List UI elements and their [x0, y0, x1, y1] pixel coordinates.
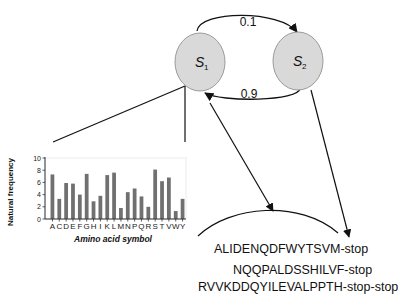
x-tick-label: I	[99, 222, 101, 231]
x-tick-label: S	[153, 222, 158, 231]
s2-emission-arrow	[311, 90, 349, 237]
bar-L	[112, 173, 116, 219]
bar-T	[160, 181, 164, 219]
bar-W	[174, 211, 178, 219]
bar-M	[119, 208, 123, 219]
y-tick-label: 10	[33, 155, 41, 162]
bar-S	[153, 170, 157, 219]
s1-emission-arrow	[198, 103, 338, 236]
bar-Y	[181, 199, 185, 219]
x-axis-title: Amino acid symbol	[73, 234, 153, 244]
sequence-3: RVVKDDQYILEVALPPTH-stop-stop	[198, 280, 398, 294]
x-tick-label: H	[91, 222, 97, 231]
x-tick-label: N	[125, 222, 131, 231]
bar-E	[71, 184, 75, 219]
y-ticks: 0246810	[33, 155, 45, 223]
sequence-1: ALIDENQDFWYTSVM-stop	[214, 242, 368, 256]
y-tick-label: 2	[37, 203, 41, 210]
bar-H	[92, 201, 96, 219]
y-tick-label: 0	[37, 216, 41, 223]
bar-F	[78, 195, 82, 219]
x-tick-label: P	[132, 222, 137, 231]
transition-prob-0-1: 0.1	[240, 15, 257, 29]
x-tick-label: R	[145, 222, 151, 231]
s1-emission-callout	[53, 86, 185, 142]
state-s2: S 2	[273, 32, 323, 90]
arrow-icon	[210, 103, 273, 211]
x-tick-label: Y	[180, 222, 186, 231]
x-tick-label: A	[50, 222, 56, 231]
x-tick-label: E	[70, 222, 75, 231]
state-s2-subscript: 2	[302, 62, 307, 71]
y-tick-label: 8	[37, 167, 41, 174]
bar-K	[105, 175, 109, 219]
bars	[51, 170, 185, 219]
arrow-icon	[311, 90, 349, 237]
sequence-2: NQQPALDSSHILVF-stop	[233, 263, 372, 277]
bar-P	[133, 189, 137, 220]
hmm-diagram: 0.1 0.9 S 1 S 2 ALIDENQDFWYTSVM-stop NQQ…	[0, 0, 417, 308]
x-tick-label: M	[118, 222, 125, 231]
state-s1-subscript: 1	[204, 63, 209, 72]
bar-Q	[140, 196, 144, 219]
frequency-bar-chart: 0246810 ACDEFGHIKLMNPQRSTVWY Natural fre…	[6, 155, 186, 245]
sequence-bracket-arc	[198, 210, 338, 236]
transition-s1-to-s2: 0.1	[197, 15, 297, 32]
x-tick-label: G	[84, 222, 90, 231]
transition-prob-0-9: 0.9	[241, 87, 258, 101]
x-tick-label: Q	[138, 222, 144, 231]
bar-C	[57, 199, 61, 219]
bar-G	[85, 174, 89, 219]
bar-I	[98, 196, 102, 219]
x-tick-label: D	[63, 222, 69, 231]
x-tick-label: L	[112, 222, 117, 231]
x-tick-label: W	[172, 222, 180, 231]
state-s1: S 1	[175, 33, 225, 91]
y-axis-title: Natural frequency	[6, 157, 15, 226]
bar-A	[51, 174, 55, 219]
y-tick-label: 4	[37, 191, 41, 198]
bar-V	[167, 178, 171, 219]
y-tick-label: 6	[37, 179, 41, 186]
x-tick-label: T	[160, 222, 165, 231]
transition-s2-to-s1: 0.9	[205, 87, 300, 101]
bar-N	[126, 192, 130, 219]
bar-D	[64, 183, 68, 219]
x-tick-label: K	[105, 222, 111, 231]
x-tick-label: F	[77, 222, 82, 231]
bar-R	[146, 207, 150, 219]
x-ticks: ACDEFGHIKLMNPQRSTVWY	[50, 219, 186, 231]
x-tick-label: C	[56, 222, 62, 231]
emitted-sequences: ALIDENQDFWYTSVM-stop NQQPALDSSHILVF-stop…	[198, 242, 398, 294]
